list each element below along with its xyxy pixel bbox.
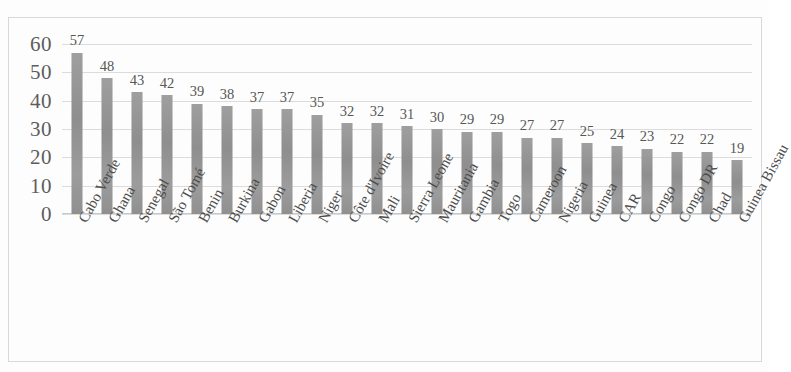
bar [402,126,413,214]
category-label-slot: CAR [602,216,632,366]
category-label-slot: Ghana [92,216,122,366]
bar [642,149,653,214]
bar-value-label: 32 [370,104,385,119]
bar-slot: 27 [512,30,542,214]
bar-slot: 23 [632,30,662,214]
y-axis-tick-label: 60 [30,34,52,55]
bar-value-label: 27 [550,118,565,133]
bar-slot: 31 [392,30,422,214]
y-axis-tick-label: 50 [30,62,52,83]
y-axis-tick-label: 0 [41,204,52,225]
category-label-slot: Benin [182,216,212,366]
bar-value-label: 38 [220,87,235,102]
category-label-slot: Sierra Leone [392,216,422,366]
bar-value-label: 43 [130,73,145,88]
category-label-slot: Niger [302,216,332,366]
y-axis-tick-labels: 0102030405060 [8,30,58,214]
bar [612,146,623,214]
bar-value-label: 30 [430,110,445,125]
category-label-slot: Cabo Verde [62,216,92,366]
bar-value-label: 37 [280,90,295,105]
bar-value-label: 22 [700,132,715,147]
category-label-slot: Congo DR [662,216,692,366]
bar-value-label: 57 [70,33,85,48]
bar [492,132,503,214]
bar-value-label: 29 [490,112,505,127]
bar-value-label: 19 [730,141,745,156]
category-label-slot: Mauritania [422,216,452,366]
category-label-slot: Chad [692,216,722,366]
bar-value-label: 24 [610,127,625,142]
bar-value-label: 39 [190,84,205,99]
bar-value-label: 22 [670,132,685,147]
bar [72,53,83,214]
category-label-slot: Mali [362,216,392,366]
bar-value-label: 48 [100,59,115,74]
category-label-slot: Congo [632,216,662,366]
bar [522,138,533,214]
category-label-slot: Togo [482,216,512,366]
x-axis-category-labels: Cabo VerdeGhanaSenegalSão ToméBeninBurki… [62,216,752,366]
y-axis-tick-label: 40 [30,90,52,111]
category-label-slot: Cameroon [512,216,542,366]
bar-value-label: 42 [160,76,175,91]
category-label-slot: Burkina [212,216,242,366]
category-label-slot: Côte d'Ivoire [332,216,362,366]
bar-value-label: 31 [400,107,415,122]
bar-value-label: 35 [310,95,325,110]
bar-value-label: 32 [340,104,355,119]
y-axis-tick-label: 30 [30,119,52,140]
category-label-slot: Guinea Bissau [722,216,752,366]
y-axis-tick-label: 10 [30,175,52,196]
bar-slot: 38 [212,30,242,214]
bar-value-label: 25 [580,124,595,139]
category-label-slot: Gambia [452,216,482,366]
y-axis-tick-label: 20 [30,147,52,168]
bar-slot: 19 [722,30,752,214]
category-label-slot: Nigeria [542,216,572,366]
category-label-slot: Liberia [272,216,302,366]
bar-slot: 57 [62,30,92,214]
category-label-slot: São Tomé [152,216,182,366]
category-label-slot: Senegal [122,216,152,366]
bar-value-label: 29 [460,112,475,127]
category-label-slot: Guinea [572,216,602,366]
bar-value-label: 27 [520,118,535,133]
bar-value-label: 23 [640,129,655,144]
bar [342,123,353,214]
bar-value-label: 37 [250,90,265,105]
bar-slot: 32 [332,30,362,214]
bar [582,143,593,214]
category-label-slot: Gabon [242,216,272,366]
